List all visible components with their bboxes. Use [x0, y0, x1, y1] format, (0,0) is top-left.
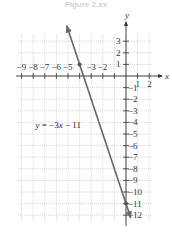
- x-tick-label: −7: [40, 62, 50, 72]
- y-tick-label: −6: [128, 141, 138, 151]
- y-tick-label: −1: [128, 83, 138, 93]
- x-tick-label: 2: [147, 79, 152, 89]
- x-tick-label: −9: [17, 62, 27, 72]
- series-line: [67, 26, 99, 122]
- data-point: [78, 62, 82, 66]
- y-tick-label: −8: [128, 164, 138, 174]
- y-tick-label: 2: [116, 48, 121, 58]
- y-tick-label: −9: [128, 175, 138, 185]
- y-tick-label: 3: [116, 36, 121, 46]
- axes: xy: [16, 10, 169, 226]
- equation-label: y = −3x − 11: [35, 120, 81, 130]
- y-tick-label: −7: [128, 152, 138, 162]
- y-tick-label: −11: [128, 199, 142, 209]
- y-axis-label: y: [124, 10, 129, 20]
- annotations: y = −3x − 11: [35, 120, 81, 130]
- y-tick-label: −10: [128, 187, 143, 197]
- x-tick-label: −5: [63, 62, 73, 72]
- x-tick-label: −3: [86, 62, 96, 72]
- y-tick-label: −4: [128, 117, 138, 127]
- x-tick-label: −6: [51, 62, 61, 72]
- line-chart: xy −9−8−7−6−5−3−212321−1−2−3−4−5−6−7−8−9…: [0, 0, 172, 237]
- y-tick-label: −2: [128, 94, 138, 104]
- y-tick-label: −5: [128, 129, 138, 139]
- x-axis-label: x: [164, 71, 169, 81]
- y-tick-label: −3: [128, 106, 138, 116]
- x-tick-label: −8: [28, 62, 38, 72]
- y-tick-label: 1: [116, 59, 121, 69]
- data-point: [124, 202, 128, 206]
- x-tick-label: −2: [98, 62, 108, 72]
